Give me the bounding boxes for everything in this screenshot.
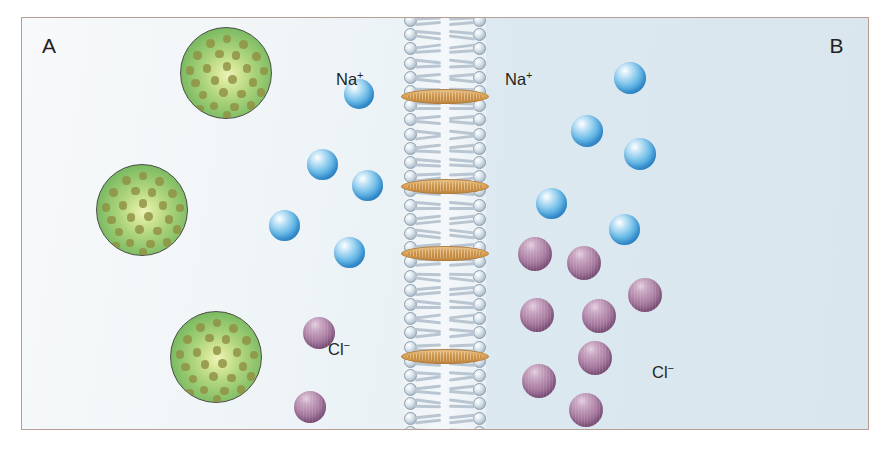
chloride-label-right-text: Cl xyxy=(652,363,668,381)
chloride-label-left-text: Cl xyxy=(328,340,344,358)
lipid-tail xyxy=(415,107,441,110)
phospholipid-molecule xyxy=(404,227,445,241)
lipid-head-icon xyxy=(473,28,486,41)
protein-surface-dot xyxy=(252,52,261,61)
lipid-head-icon xyxy=(473,397,486,410)
protein-surface-dot xyxy=(119,201,128,210)
lipid-tail xyxy=(449,390,475,395)
protein-surface-dot xyxy=(139,248,148,256)
phospholipid-molecule xyxy=(404,199,445,213)
phospholipid-molecule xyxy=(445,397,486,411)
protein-surface-dot xyxy=(135,225,144,234)
chloride-ion-b-9 xyxy=(522,364,556,398)
protein-surface-dot xyxy=(176,350,185,359)
sodium-ion-a-3 xyxy=(352,170,383,201)
phospholipid-molecule xyxy=(445,412,486,426)
chloride-ion-b-3 xyxy=(518,237,552,271)
chloride-label-right-charge: − xyxy=(668,362,674,374)
lipid-tail xyxy=(415,263,441,268)
lipid-head-icon xyxy=(473,57,486,70)
protein-surface-dot xyxy=(237,385,246,394)
phospholipid-molecule xyxy=(404,397,445,411)
protein-surface-dot xyxy=(199,91,208,100)
lipid-tail xyxy=(415,21,441,26)
protein-surface-dot xyxy=(127,213,136,222)
lipid-tail xyxy=(415,207,441,210)
protein-surface-dot xyxy=(260,67,269,76)
protein-surface-dot xyxy=(243,64,252,73)
phospholipid-molecule xyxy=(404,213,445,227)
protein-surface-dot xyxy=(211,76,220,85)
phospholipid-molecule xyxy=(404,326,445,340)
lipid-monolayer-inner xyxy=(445,18,486,429)
lipid-tail xyxy=(415,58,441,64)
protein-surface-dot xyxy=(146,240,155,249)
lipid-head-icon xyxy=(473,426,486,430)
protein-sphere-2 xyxy=(96,164,188,256)
phospholipid-molecule xyxy=(404,156,445,170)
lipid-head-icon xyxy=(473,298,486,311)
chloride-ion-a-2 xyxy=(294,391,326,423)
channel-protein-3[interactable] xyxy=(401,246,489,261)
sodium-ion-a-5 xyxy=(334,237,365,268)
lipid-tail xyxy=(449,50,475,55)
lipid-tail xyxy=(415,405,441,408)
lipid-tail xyxy=(449,306,475,309)
lipid-head-icon xyxy=(473,128,486,141)
phospholipid-molecule xyxy=(445,326,486,340)
channel-protein-1[interactable] xyxy=(401,89,489,104)
protein-surface-dot xyxy=(155,177,164,186)
phospholipid-molecule xyxy=(404,412,445,426)
sodium-ion-b-8 xyxy=(624,138,656,170)
lipid-tail xyxy=(415,300,441,306)
protein-surface-dot xyxy=(176,204,185,213)
lipid-tail xyxy=(415,418,441,424)
lipid-tail xyxy=(415,143,441,149)
protein-surface-dot xyxy=(218,359,227,368)
protein-surface-dot xyxy=(230,103,239,112)
lipid-tail xyxy=(415,201,441,206)
lipid-head-icon xyxy=(473,156,486,169)
phospholipid-molecule xyxy=(445,113,486,127)
lipid-tail xyxy=(449,418,475,424)
phospholipid-molecule xyxy=(404,426,445,430)
lipid-tail xyxy=(449,158,475,163)
lipid-tail xyxy=(415,291,441,296)
lipid-head-icon xyxy=(473,213,486,226)
lipid-head-icon xyxy=(473,71,486,84)
phospholipid-molecule xyxy=(404,312,445,326)
lipid-tail xyxy=(415,134,441,140)
channel-protein-4[interactable] xyxy=(401,349,489,364)
lipid-tail xyxy=(415,163,441,167)
lipid-tail xyxy=(449,405,475,408)
protein-surface-dot xyxy=(233,348,242,357)
channel-protein-2[interactable] xyxy=(401,179,489,194)
protein-surface-dot xyxy=(210,102,219,111)
protein-surface-dot xyxy=(185,389,194,398)
sodium-label-right-text: Na xyxy=(505,70,526,88)
protein-surface-dot xyxy=(229,324,238,333)
lipid-tail xyxy=(449,143,475,149)
lipid-tail xyxy=(449,107,475,110)
phospholipid-molecule xyxy=(404,71,445,85)
phospholipid-molecule xyxy=(445,383,486,397)
sodium-ion-b-6 xyxy=(614,62,646,94)
chloride-ion-b-5 xyxy=(628,278,662,312)
phospholipid-molecule xyxy=(404,128,445,142)
lipid-tail xyxy=(415,233,441,239)
phospholipid-molecule xyxy=(404,17,445,28)
protein-surface-dot xyxy=(165,215,174,224)
phospholipid-molecule xyxy=(445,213,486,227)
lipid-tail xyxy=(449,343,475,347)
protein-surface-dot xyxy=(144,212,153,221)
phospholipid-molecule xyxy=(445,369,486,383)
lipid-tail xyxy=(449,263,475,268)
lipid-tail xyxy=(449,207,475,210)
phospholipid-molecule xyxy=(445,71,486,85)
lipid-tail xyxy=(415,428,441,430)
protein-surface-dot xyxy=(242,336,251,345)
lipid-tail xyxy=(415,319,441,325)
lipid-tail xyxy=(415,50,441,55)
protein-surface-dot xyxy=(247,101,256,110)
lipid-tail xyxy=(415,343,441,347)
